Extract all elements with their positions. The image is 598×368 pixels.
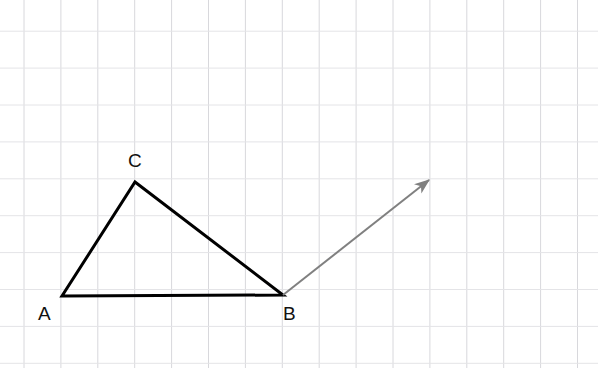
vertex-label-A: A	[38, 303, 51, 324]
geometry-diagram-canvas: A B C	[0, 0, 598, 368]
canvas-background	[0, 0, 598, 368]
diagram-svg: A B C	[0, 0, 598, 368]
vertex-label-B: B	[283, 303, 296, 324]
vertex-label-C: C	[128, 150, 142, 171]
